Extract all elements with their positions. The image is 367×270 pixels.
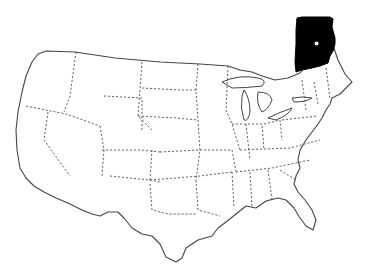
us-outline-map xyxy=(0,0,367,270)
location-marker-dot xyxy=(315,42,319,46)
us-outline xyxy=(16,42,352,262)
